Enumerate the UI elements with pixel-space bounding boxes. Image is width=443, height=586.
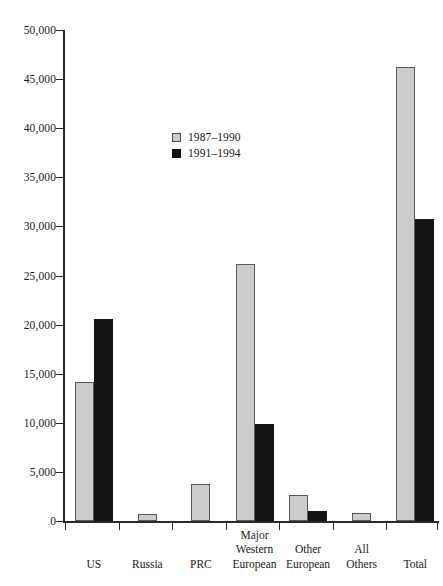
legend-swatch-icon — [172, 133, 181, 142]
y-axis-tick — [56, 472, 63, 473]
x-axis-label-line: US — [86, 557, 101, 572]
y-axis-tick-label: 35,000 — [24, 171, 56, 183]
x-axis-label-line: Others — [346, 557, 377, 572]
y-axis-tick-label: 10,000 — [24, 417, 56, 429]
y-axis-tick-label: 40,000 — [24, 122, 56, 134]
y-axis-tick — [56, 276, 63, 277]
legend-swatch-icon — [172, 149, 181, 158]
x-axis-label: AllOthers — [346, 542, 377, 571]
y-axis-tick — [56, 423, 63, 424]
x-axis-label-line: Russia — [132, 557, 163, 572]
y-axis-tick — [56, 79, 63, 80]
bar-1987-1990 — [289, 495, 308, 521]
x-axis-label-line: European — [232, 557, 276, 572]
plot-area — [63, 30, 438, 522]
x-axis-label: Total — [403, 557, 426, 572]
x-axis-label: Russia — [132, 557, 163, 572]
x-axis-label-line: European — [286, 557, 330, 572]
x-axis-label-line: Other — [286, 542, 330, 557]
x-axis-label: PRC — [190, 557, 212, 572]
legend-item: 1991–1994 — [172, 145, 241, 161]
bar-1991-1994 — [255, 424, 274, 521]
x-axis-label-line: Western — [232, 542, 276, 557]
x-axis-label-line: Total — [403, 557, 426, 572]
x-axis-label-line: All — [346, 542, 377, 557]
legend-label: 1991–1994 — [188, 147, 241, 159]
y-axis-tick-label: 5,000 — [30, 466, 56, 478]
y-axis-tick-label: 45,000 — [24, 73, 56, 85]
bar-1987-1990 — [396, 67, 415, 521]
y-axis-tick — [56, 30, 63, 31]
y-axis-labels: 05,00010,00015,00020,00025,00030,00035,0… — [0, 30, 56, 523]
legend-label: 1987–1990 — [188, 131, 241, 143]
x-axis-label: US — [86, 557, 101, 572]
y-axis-tick-label: 30,000 — [24, 220, 56, 232]
y-axis-tick-label: 20,000 — [24, 319, 56, 331]
bar-1987-1990 — [236, 264, 255, 521]
y-axis-line — [63, 30, 65, 523]
bar-1987-1990 — [75, 382, 94, 521]
y-axis-tick-label: 50,000 — [24, 24, 56, 36]
x-axis-label-line: PRC — [190, 557, 212, 572]
bar-1987-1990 — [352, 513, 371, 521]
y-axis-tick-label: 15,000 — [24, 368, 56, 380]
bar-1987-1990 — [191, 484, 210, 521]
bar-1991-1994 — [308, 511, 327, 521]
y-axis-tick — [56, 177, 63, 178]
x-axis-label: MajorWesternEuropean — [232, 528, 276, 572]
legend-item: 1987–1990 — [172, 129, 241, 145]
bar-chart: 05,00010,00015,00020,00025,00030,00035,0… — [0, 0, 443, 586]
x-axis-label-line: Major — [232, 528, 276, 543]
y-axis-tick — [56, 521, 63, 522]
x-axis-category-labels: USRussiaPRCMajorWesternEuropeanOtherEuro… — [63, 527, 438, 586]
chart-legend: 1987–1990 1991–1994 — [172, 129, 241, 161]
y-axis-tick — [56, 325, 63, 326]
bar-1991-1994 — [415, 219, 434, 521]
y-axis-tick — [56, 374, 63, 375]
y-axis-tick — [56, 226, 63, 227]
x-axis-label: OtherEuropean — [286, 542, 330, 571]
bar-1991-1994 — [94, 319, 113, 521]
y-axis-tick-label: 25,000 — [24, 270, 56, 282]
bar-1987-1990 — [138, 514, 157, 521]
y-axis-tick — [56, 128, 63, 129]
